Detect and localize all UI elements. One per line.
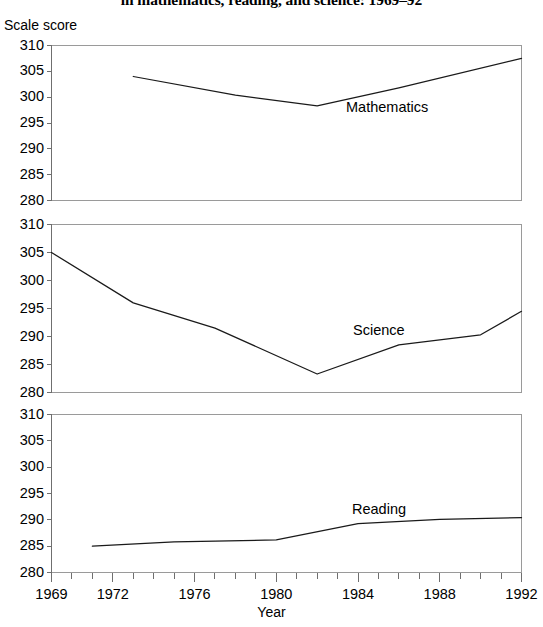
x-tick-label: 1988 xyxy=(424,587,456,602)
series-label-mathematics: Mathematics xyxy=(346,100,428,115)
series-label-science: Science xyxy=(353,323,405,338)
y-tick-label: 310 xyxy=(4,38,44,53)
y-tick-label: 280 xyxy=(4,385,44,400)
series-label-reading: Reading xyxy=(352,502,406,517)
y-tick-label: 290 xyxy=(4,141,44,156)
y-tick-label: 310 xyxy=(4,407,44,422)
y-tick-label: 300 xyxy=(4,89,44,104)
y-tick-label: 300 xyxy=(4,273,44,288)
y-tick-label: 295 xyxy=(4,301,44,316)
y-tick-label: 290 xyxy=(4,329,44,344)
plot-svg xyxy=(0,0,543,627)
y-tick-label: 305 xyxy=(4,63,44,78)
y-tick-label: 285 xyxy=(4,538,44,553)
y-tick-label: 300 xyxy=(4,459,44,474)
panel-3-frame xyxy=(52,415,522,573)
y-tick-label: 305 xyxy=(4,433,44,448)
y-tick-label: 295 xyxy=(4,115,44,130)
y-tick-label: 310 xyxy=(4,217,44,232)
y-tick-label: 285 xyxy=(4,167,44,182)
x-tick-label: 1984 xyxy=(342,587,374,602)
x-tick-label: 1980 xyxy=(260,587,292,602)
figure-container: in mathematics, reading, and science: 19… xyxy=(0,0,543,627)
series-line-reading xyxy=(92,518,521,546)
y-tick-label: 285 xyxy=(4,357,44,372)
panel-1-frame xyxy=(52,46,522,201)
x-tick-label: 1972 xyxy=(97,587,129,602)
y-tick-label: 305 xyxy=(4,245,44,260)
y-tick-label: 295 xyxy=(4,486,44,501)
panel-2-frame xyxy=(52,225,522,393)
y-tick-label: 290 xyxy=(4,512,44,527)
series-line-science xyxy=(52,253,522,375)
x-tick-label: 1992 xyxy=(505,587,537,602)
x-tick-label: 1969 xyxy=(35,587,67,602)
y-tick-label: 280 xyxy=(4,565,44,580)
series-line-mathematics xyxy=(133,58,521,106)
y-tick-label: 280 xyxy=(4,193,44,208)
x-tick-label: 1976 xyxy=(178,587,210,602)
